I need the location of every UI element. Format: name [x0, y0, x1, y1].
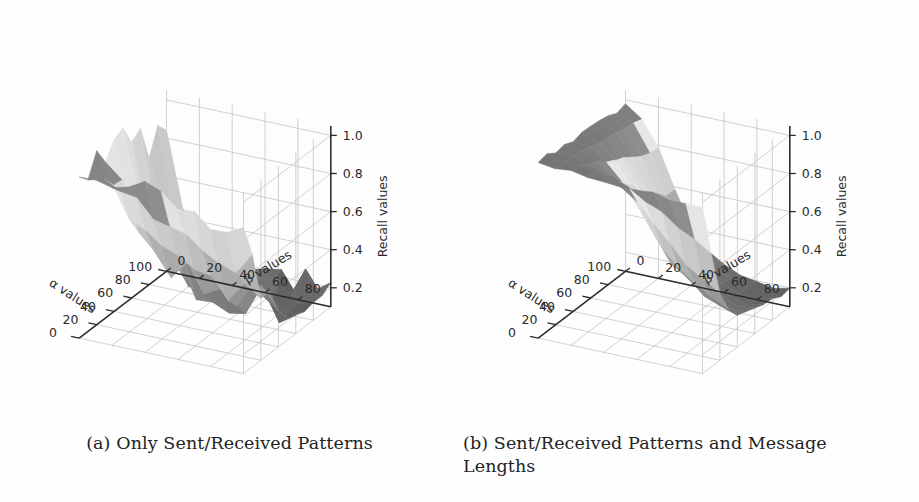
- svg-text:0: 0: [508, 325, 516, 340]
- svg-text:80: 80: [574, 272, 590, 287]
- svg-text:80: 80: [115, 272, 131, 287]
- surface-plot-b: 0204060801000204060800.20.40.60.81.0α va…: [459, 0, 918, 432]
- svg-text:α values: α values: [505, 275, 558, 316]
- svg-text:60: 60: [272, 274, 288, 289]
- caption-b: (b) Sent/Received Patterns and Message L…: [459, 432, 893, 478]
- surface-plot-a: 0204060801000204060800.20.40.60.81.0α va…: [0, 0, 459, 432]
- caption-a-line-1: (a) Only Sent/Received Patterns: [86, 433, 373, 453]
- panel-b: 0204060801000204060800.20.40.60.81.0α va…: [459, 0, 918, 502]
- panel-a: 0204060801000204060800.20.40.60.81.0α va…: [0, 0, 459, 502]
- svg-text:0.4: 0.4: [802, 242, 822, 257]
- svg-text:20: 20: [521, 312, 537, 327]
- caption-b-line-1: (b) Sent/Received Patterns and Message: [463, 433, 827, 453]
- svg-text:0.2: 0.2: [802, 280, 822, 295]
- svg-text:1.0: 1.0: [802, 128, 822, 143]
- svg-text:0.8: 0.8: [343, 166, 363, 181]
- svg-text:0: 0: [49, 325, 57, 340]
- svg-text:60: 60: [556, 285, 572, 300]
- svg-text:100: 100: [587, 259, 611, 274]
- svg-text:Recall values: Recall values: [834, 175, 849, 257]
- svg-text:0: 0: [177, 253, 185, 268]
- figure-container: 0204060801000204060800.20.40.60.81.0α va…: [0, 0, 919, 502]
- svg-text:100: 100: [128, 259, 152, 274]
- caption-b-line-2: Lengths: [463, 456, 535, 476]
- svg-text:80: 80: [305, 281, 321, 296]
- caption-a: (a) Only Sent/Received Patterns: [0, 432, 459, 455]
- svg-text:60: 60: [97, 285, 113, 300]
- svg-text:0: 0: [636, 253, 644, 268]
- svg-text:Recall values: Recall values: [375, 175, 390, 257]
- svg-text:α values: α values: [46, 275, 99, 316]
- svg-text:80: 80: [764, 281, 780, 296]
- svg-text:0.6: 0.6: [802, 204, 822, 219]
- svg-text:20: 20: [206, 260, 222, 275]
- svg-text:0.8: 0.8: [802, 166, 822, 181]
- svg-text:20: 20: [62, 312, 78, 327]
- svg-text:60: 60: [731, 274, 747, 289]
- svg-text:1.0: 1.0: [343, 128, 363, 143]
- svg-text:0.6: 0.6: [343, 204, 363, 219]
- svg-text:0.2: 0.2: [343, 280, 363, 295]
- svg-text:20: 20: [665, 260, 681, 275]
- svg-text:0.4: 0.4: [343, 242, 363, 257]
